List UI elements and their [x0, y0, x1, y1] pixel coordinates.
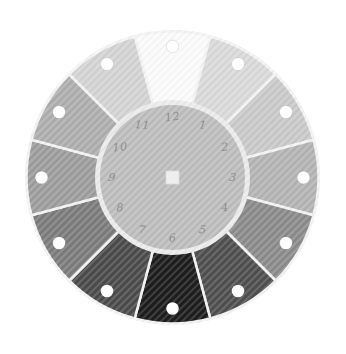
hour-label-11: 11: [134, 118, 150, 132]
hour-label-2: 2: [220, 140, 230, 154]
punch-hole-12: [166, 40, 179, 53]
punch-hole-10: [53, 106, 66, 119]
hour-label-5: 5: [198, 223, 207, 237]
value-wheel: 121234567891011: [0, 0, 346, 354]
photo-grayscale-value-wheel: 121234567891011: [0, 0, 346, 354]
hour-label-3: 3: [228, 171, 237, 185]
punch-hole-3: [297, 171, 310, 184]
punch-hole-1: [232, 58, 245, 71]
punch-hole-9: [35, 171, 48, 184]
hour-label-1: 1: [198, 118, 207, 132]
punch-hole-4: [280, 237, 293, 250]
punch-hole-11: [101, 58, 114, 71]
punch-hole-8: [53, 237, 66, 250]
hour-label-10: 10: [112, 140, 128, 154]
punch-hole-6: [166, 302, 179, 315]
punch-hole-5: [232, 285, 245, 298]
hour-label-7: 7: [138, 223, 147, 237]
punch-hole-7: [101, 285, 114, 298]
center-square: [166, 171, 179, 184]
punch-hole-2: [280, 106, 293, 119]
hour-label-6: 6: [168, 231, 177, 245]
hour-label-4: 4: [219, 201, 229, 215]
hour-label-8: 8: [116, 201, 125, 215]
hour-label-12: 12: [164, 110, 181, 125]
